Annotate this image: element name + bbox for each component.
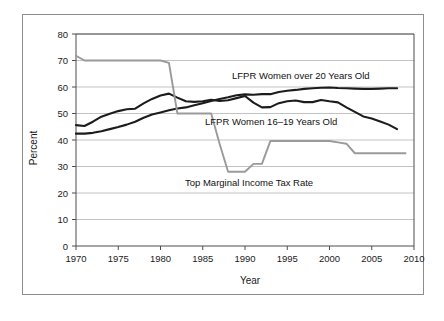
x-tick-label-1970: 1970: [65, 253, 86, 264]
annotation-label-2: Top Marginal Income Tax Rate: [185, 177, 313, 188]
y-tick-label-10: 10: [57, 214, 68, 225]
annotation-label-0: LFPR Women over 20 Years Old: [232, 70, 370, 81]
line-chart: 01020304050607080 1970197519801985199019…: [0, 0, 444, 321]
y-tick-label-50: 50: [57, 108, 68, 119]
y-tick-label-30: 30: [57, 161, 68, 172]
y-tick-label-0: 0: [63, 241, 68, 252]
y-tick-label-60: 60: [57, 82, 68, 93]
annotation-label-1: LFPR Women 16–19 Years Old: [205, 116, 337, 127]
x-axis: [76, 246, 414, 250]
x-tick-label-1980: 1980: [150, 253, 171, 264]
x-tick-labels: 197019751980198519901995200020052010: [65, 253, 424, 264]
x-axis-title: Year: [240, 275, 261, 286]
y-tick-label-70: 70: [57, 55, 68, 66]
x-tick-label-1990: 1990: [234, 253, 255, 264]
x-tick-label-1995: 1995: [277, 253, 298, 264]
x-tick-label-1985: 1985: [192, 253, 213, 264]
y-tick-labels: 01020304050607080: [57, 29, 68, 252]
figure-root: 01020304050607080 1970197519801985199019…: [0, 0, 444, 321]
y-tick-label-20: 20: [57, 188, 68, 199]
y-tick-label-80: 80: [57, 29, 68, 40]
y-axis-title: Percent: [28, 131, 39, 166]
x-tick-label-2010: 2010: [403, 253, 424, 264]
x-tick-label-2005: 2005: [361, 253, 382, 264]
x-tick-label-2000: 2000: [319, 253, 340, 264]
y-tick-label-40: 40: [57, 135, 68, 146]
x-tick-label-1975: 1975: [108, 253, 129, 264]
